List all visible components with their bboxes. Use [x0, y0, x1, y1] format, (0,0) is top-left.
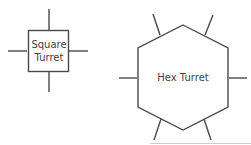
square-turret-label-line1: Square: [29, 38, 69, 51]
hex-spoke-upper-left: [153, 14, 160, 35]
hex-spoke-lower-left: [154, 119, 161, 140]
hex-spoke-upper-right: [205, 15, 213, 35]
hex-turret-label: Hex Turret: [148, 71, 218, 84]
square-turret-label-line2: Turret: [29, 51, 69, 64]
hex-spoke-lower-right: [204, 119, 211, 140]
square-turret-label: Square Turret: [29, 38, 69, 64]
